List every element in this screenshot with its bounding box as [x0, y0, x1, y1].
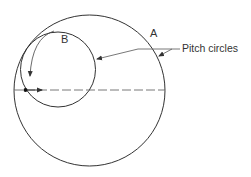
contact-point-dot: [24, 88, 28, 92]
pitch-circle-b: [21, 32, 96, 107]
label-a: A: [150, 28, 157, 39]
rotation-arrow-icon: [30, 31, 54, 76]
leader-line-b: [97, 49, 180, 59]
label-pitch-circles: Pitch circles: [182, 43, 238, 54]
leader-line-a: [159, 49, 172, 56]
label-b: B: [61, 34, 68, 45]
pitch-circle-diagram: [0, 0, 251, 177]
